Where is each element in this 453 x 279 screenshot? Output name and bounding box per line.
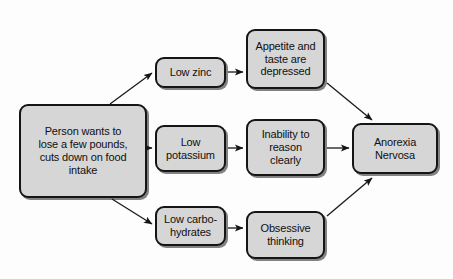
node-label: Inability to reason clearly — [259, 128, 313, 167]
edge-source-to-low-zinc — [110, 73, 152, 104]
edge-source-to-low-carbohydrates — [112, 199, 152, 224]
node-label: Anorexia Nervosa — [371, 136, 419, 162]
node-obsessive-thinking[interactable]: Obsessive thinking — [246, 211, 325, 259]
node-anorexia-nervosa[interactable]: Anorexia Nervosa — [352, 123, 438, 174]
flow-diagram: Person wants to lose a few pounds, cuts … — [0, 0, 453, 279]
node-label: Low carbo- hydrates — [161, 213, 220, 239]
node-label: Low potassium — [163, 136, 218, 162]
node-person-wants-to-lose-weight[interactable]: Person wants to lose a few pounds, cuts … — [19, 104, 147, 198]
node-label: Low zinc — [167, 66, 215, 79]
node-low-potassium[interactable]: Low potassium — [155, 125, 226, 172]
node-label: Person wants to lose a few pounds, cuts … — [35, 125, 130, 177]
node-low-zinc[interactable]: Low zinc — [155, 57, 226, 88]
node-label: Obsessive thinking — [257, 222, 313, 248]
edge-appetite-to-anorexia — [327, 83, 372, 120]
node-label: Appetite and taste are depressed — [253, 40, 319, 79]
edge-obsessive-to-anorexia — [327, 178, 372, 216]
node-inability-to-reason-clearly[interactable]: Inability to reason clearly — [246, 119, 325, 176]
node-appetite-and-taste-depressed[interactable]: Appetite and taste are depressed — [246, 29, 325, 89]
node-low-carbohydrates[interactable]: Low carbo- hydrates — [155, 206, 226, 246]
